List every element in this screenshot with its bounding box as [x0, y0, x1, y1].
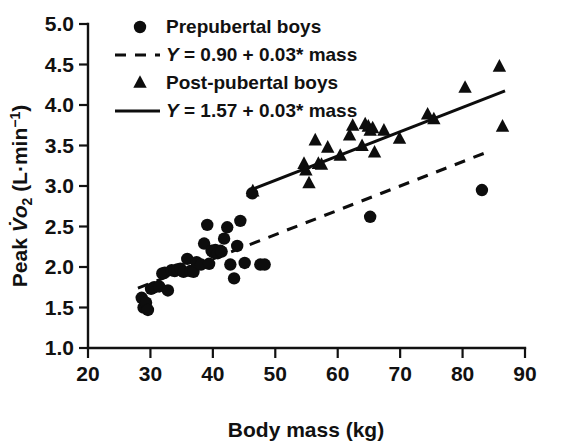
legend-label: Prepubertal boys [166, 16, 321, 37]
x-tick-label: 90 [513, 362, 536, 385]
data-point-triangle [458, 80, 471, 93]
data-point-triangle [321, 140, 334, 153]
legend-label: Y = 1.57 + 0.03* mass [166, 100, 357, 121]
x-tick-label: 60 [326, 362, 349, 385]
x-axis-tick-labels: 2030405060708090 [76, 362, 536, 385]
x-tick-label: 50 [264, 362, 287, 385]
data-point-circle [231, 240, 243, 252]
x-axis-title: Body mass (kg) [228, 418, 384, 441]
data-point-circle [203, 258, 215, 270]
y-tick-label: 4.0 [45, 93, 74, 116]
y-tick-label: 1.5 [45, 296, 75, 319]
y-axis-title: Peak V̇o2 (L·min−1) [7, 105, 35, 287]
data-point-triangle [368, 145, 381, 158]
data-point-circle [142, 304, 154, 316]
legend-triangle-icon [133, 75, 146, 88]
x-tick-label: 70 [388, 362, 411, 385]
data-point-circle [215, 245, 227, 257]
y-tick-label: 3.0 [45, 174, 74, 197]
y-axis-tick-labels: 1.01.52.02.53.03.54.04.55.0 [45, 12, 75, 359]
legend-label: Post-pubertal boys [166, 72, 338, 93]
chart-legend: Prepubertal boysY = 0.90 + 0.03* massPos… [115, 16, 357, 121]
data-point-triangle [493, 59, 506, 72]
data-point-circle [234, 215, 246, 227]
data-point-circle [238, 257, 250, 269]
data-point-triangle [309, 133, 322, 146]
data-point-circle [201, 219, 213, 231]
data-point-circle [228, 272, 240, 284]
x-tick-label: 30 [139, 362, 162, 385]
data-point-circle [224, 258, 236, 270]
x-tick-label: 40 [201, 362, 224, 385]
y-tick-label: 2.5 [45, 215, 75, 238]
y-tick-label: 4.5 [45, 53, 75, 76]
data-point-circle [162, 284, 174, 296]
y-tick-label: 3.5 [45, 134, 75, 157]
svg-text:Body mass (kg): Body mass (kg) [228, 418, 384, 441]
data-point-circle [476, 184, 488, 196]
legend-circle-icon [134, 21, 146, 33]
data-point-circle [258, 258, 270, 270]
data-point-triangle [377, 123, 390, 136]
data-points [135, 59, 509, 316]
y-tick-label: 1.0 [45, 336, 74, 359]
data-point-triangle [496, 119, 509, 132]
scatter-plot: 1.01.52.02.53.03.54.04.55.0 203040506070… [0, 0, 561, 447]
data-point-circle [364, 211, 376, 223]
x-tick-label: 80 [451, 362, 474, 385]
chart-figure: 1.01.52.02.53.03.54.04.55.0 203040506070… [0, 0, 561, 447]
data-point-triangle [302, 176, 315, 189]
svg-text:Peak V̇o2 (L·min−1): Peak V̇o2 (L·min−1) [7, 105, 35, 287]
data-point-circle [221, 221, 233, 233]
x-tick-label: 20 [76, 362, 99, 385]
legend-label: Y = 0.90 + 0.03* mass [166, 44, 357, 65]
y-tick-label: 5.0 [45, 12, 74, 35]
data-point-circle [218, 232, 230, 244]
y-tick-label: 2.0 [45, 255, 74, 278]
